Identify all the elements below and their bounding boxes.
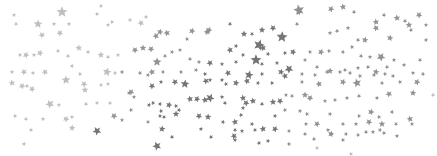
- star-icon: [338, 70, 342, 74]
- star-icon: [303, 132, 307, 136]
- star-icon: [256, 81, 260, 85]
- star-icon: [31, 71, 35, 75]
- star-icon: [151, 101, 155, 105]
- star-icon: [194, 96, 200, 103]
- star-icon: [116, 53, 120, 57]
- star-icon: [295, 22, 299, 26]
- star-icon: [283, 108, 287, 112]
- star-icon: [178, 48, 182, 52]
- star-icon: [106, 23, 110, 27]
- star-icon: [45, 100, 54, 109]
- star-icon: [402, 63, 406, 67]
- star-icon: [409, 28, 413, 32]
- star-icon: [10, 70, 14, 74]
- star-icon: [303, 58, 307, 62]
- star-icon: [82, 87, 89, 93]
- star-icon: [313, 73, 317, 77]
- star-icon: [158, 114, 162, 118]
- star-icon: [326, 128, 330, 132]
- star-icon: [250, 98, 257, 104]
- star-icon: [241, 31, 248, 37]
- star-icon: [158, 102, 162, 106]
- star-icon: [410, 90, 417, 96]
- star-icon: [282, 73, 288, 80]
- star-icon: [390, 110, 394, 114]
- star-icon: [308, 50, 312, 54]
- star-icon: [19, 83, 26, 89]
- star-icon: [113, 71, 117, 75]
- star-icon: [312, 137, 316, 141]
- star-icon: [266, 139, 270, 143]
- star-icon: [385, 65, 389, 69]
- star-icon: [241, 106, 245, 110]
- star-icon: [9, 80, 16, 86]
- star-icon: [341, 138, 345, 142]
- star-icon: [371, 130, 375, 134]
- star-icon: [352, 79, 360, 88]
- star-icon: [66, 54, 70, 58]
- star-icon: [221, 120, 225, 124]
- star-icon: [174, 104, 178, 108]
- star-icon: [290, 49, 296, 56]
- star-icon: [350, 45, 354, 49]
- star-icon: [245, 71, 254, 80]
- star-icon: [32, 53, 36, 57]
- star-icon: [259, 27, 266, 33]
- star-icon: [62, 75, 71, 83]
- star-icon: [149, 69, 155, 76]
- star-icon: [260, 126, 266, 133]
- star-icon: [373, 25, 379, 32]
- star-icon: [224, 82, 228, 86]
- star-icon: [25, 84, 29, 88]
- star-icon: [307, 95, 314, 101]
- star-icon: [284, 93, 288, 97]
- star-icon: [340, 4, 346, 11]
- star-icon: [170, 135, 174, 139]
- star-icon: [394, 122, 398, 126]
- star-icon: [153, 57, 162, 65]
- star-icon: [23, 52, 29, 59]
- star-icon: [335, 29, 339, 33]
- star-icon: [57, 6, 68, 16]
- star-icon: [285, 65, 294, 73]
- star-icon: [392, 58, 396, 62]
- star-icon: [424, 23, 428, 27]
- star-icon: [197, 60, 201, 64]
- star-icon: [152, 142, 161, 151]
- star-icon: [304, 122, 308, 126]
- star-icon: [250, 32, 254, 36]
- star-icon: [358, 74, 362, 78]
- star-icon: [403, 19, 407, 23]
- star-icon: [203, 78, 210, 84]
- star-icon: [81, 81, 88, 87]
- star-icon: [129, 108, 133, 112]
- star-icon: [270, 81, 274, 85]
- star-icon: [239, 113, 243, 117]
- star-icon: [207, 60, 214, 66]
- star-icon: [333, 98, 337, 102]
- star-icon: [39, 32, 46, 38]
- star-icon: [354, 122, 358, 126]
- star-icon: [138, 71, 142, 75]
- star-icon: [328, 131, 334, 138]
- star-icon: [146, 120, 150, 124]
- star-icon: [379, 121, 386, 127]
- star-icon: [394, 15, 401, 21]
- star-icon: [431, 93, 435, 97]
- star-icon: [315, 65, 319, 69]
- star-icon: [170, 50, 174, 54]
- star-icon: [416, 12, 423, 18]
- star-icon: [18, 53, 22, 57]
- star-icon: [93, 127, 102, 136]
- star-icon: [99, 4, 103, 8]
- star-icon: [398, 80, 402, 84]
- star-icon: [187, 96, 193, 103]
- star-icon: [166, 102, 172, 109]
- star-icon: [278, 69, 284, 76]
- star-icon: [120, 70, 124, 74]
- star-icon: [42, 69, 48, 76]
- star-icon: [220, 78, 224, 82]
- star-icon: [128, 18, 132, 22]
- star-icon: [220, 95, 224, 99]
- star-icon: [84, 102, 88, 106]
